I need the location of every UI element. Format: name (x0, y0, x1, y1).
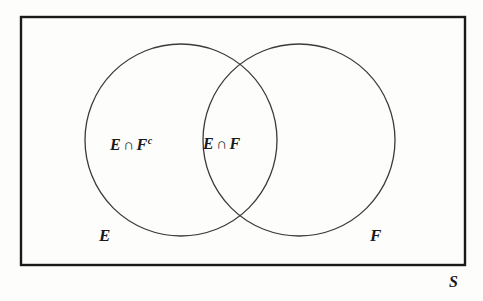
venn-diagram-canvas (0, 0, 483, 301)
set-label-f: F (370, 227, 382, 244)
region-label-e-intersect-f: E∩F (203, 136, 241, 152)
universe-label-s: S (449, 274, 458, 290)
intersection-label-e-base: E (203, 135, 214, 152)
intersection-operator-icon: ∩ (121, 137, 136, 153)
venn-diagram-figure: E∩Fc E∩F E F S (0, 0, 483, 301)
intersection-label-f-base: F (230, 135, 241, 152)
universe-rectangle (21, 17, 465, 265)
region-label-e-intersect-f-complement: E∩Fc (110, 136, 153, 153)
set-label-e: E (99, 227, 111, 244)
complement-superscript: c (148, 135, 153, 146)
intersection-operator-icon: ∩ (214, 136, 229, 152)
region-label-e-base: E (110, 136, 121, 153)
region-label-f-base: F (137, 136, 148, 153)
